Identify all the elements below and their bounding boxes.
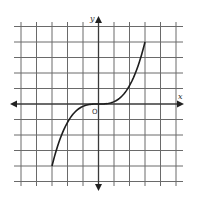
origin-label: O — [92, 108, 98, 116]
x-axis-right-arrow-icon — [177, 101, 184, 108]
x-axis-left-arrow-icon — [10, 101, 17, 108]
y-axis-down-arrow-icon — [95, 184, 102, 191]
y-axis-label: y — [89, 14, 95, 23]
y-axis-up-arrow-icon — [95, 16, 102, 23]
coordinate-plane: x y O — [0, 0, 197, 201]
x-axis-label: x — [178, 92, 183, 101]
